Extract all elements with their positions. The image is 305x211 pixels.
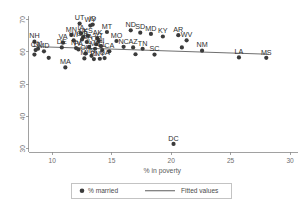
data-point-label: VA (58, 32, 67, 41)
x-tick-label: 15 (108, 157, 116, 164)
data-point (133, 52, 137, 56)
x-axis-title: % in poverty (144, 167, 182, 175)
data-point-label: KY (158, 26, 168, 35)
data-point-label: HI (97, 36, 104, 45)
data-point-label: SC (150, 44, 160, 53)
data-point-label: MI (80, 48, 88, 57)
data-point-label: NC (118, 37, 128, 46)
y-tick-label: 30 (19, 145, 26, 153)
data-point (47, 56, 51, 60)
data-point (32, 52, 36, 56)
y-tick-label: 40 (19, 113, 26, 121)
data-point-label: MD (38, 41, 49, 50)
y-tick-label: 60 (19, 48, 26, 56)
data-point-label: LA (235, 47, 244, 56)
data-point-label: MT (102, 22, 113, 31)
data-point-label: DC (168, 134, 178, 143)
data-point-label: MA (60, 57, 71, 66)
legend-marker-dot (80, 188, 85, 193)
data-point-label: NM (196, 40, 207, 49)
legend-label-fitted: Fitted values (181, 187, 219, 194)
data-point-label: ID (89, 14, 96, 23)
legend: % marriedFitted values (71, 183, 231, 199)
data-point-label: MS (261, 48, 272, 57)
data-point-label: TN (138, 39, 148, 48)
data-point-label: UT (75, 13, 85, 22)
plot-canvas: 30405060701015202530% in poverty NHCTNJM… (0, 0, 305, 211)
data-points-layer (32, 21, 268, 146)
legend-label-married: % married (88, 187, 118, 194)
data-point-label: WV (181, 30, 193, 39)
x-tick-label: 20 (167, 157, 175, 164)
x-tick-label: 25 (227, 157, 235, 164)
x-tick-label: 30 (286, 157, 294, 164)
scatter-plot-figure: 30405060701015202530% in poverty NHCTNJM… (0, 0, 305, 211)
y-tick-label: 70 (19, 16, 26, 24)
data-point-label: CA (104, 41, 114, 50)
data-point (180, 45, 184, 49)
data-point-label: SD (135, 22, 145, 31)
y-tick-label: 50 (19, 80, 26, 88)
x-tick-label: 10 (49, 157, 57, 164)
data-point-label: MD (145, 24, 156, 33)
